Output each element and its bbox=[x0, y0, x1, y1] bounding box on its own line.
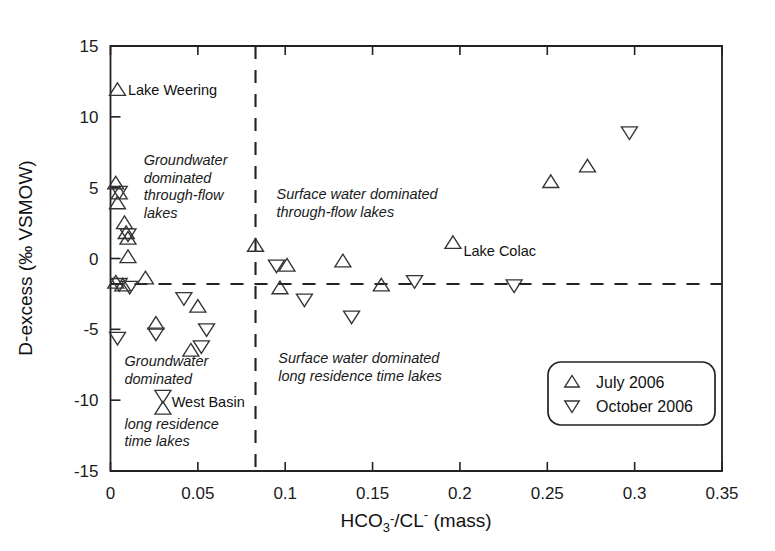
x-tick-label: 0.3 bbox=[623, 484, 647, 503]
legend-label: October 2006 bbox=[596, 398, 693, 415]
lake-colac-label: Lake Colac bbox=[463, 243, 536, 259]
annotation-line: Surface water dominated bbox=[276, 186, 438, 202]
annotation-line: lakes bbox=[144, 205, 178, 221]
x-tick-label: 0.15 bbox=[356, 484, 389, 503]
legend-box bbox=[548, 362, 715, 425]
y-tick-label: -10 bbox=[74, 391, 99, 410]
x-tick-label: 0.25 bbox=[531, 484, 564, 503]
y-axis-title: D-excess (‰ VSMOW) bbox=[15, 160, 36, 355]
annotation-line: Groundwater bbox=[144, 152, 229, 168]
y-tick-label: 5 bbox=[89, 179, 98, 198]
annotation-line: Groundwater bbox=[124, 353, 209, 369]
svg-text:HCO3-/CL- (mass): HCO3-/CL- (mass) bbox=[340, 507, 491, 535]
surface-longresidence-label: Surface water dominatedlong residence ti… bbox=[278, 350, 442, 384]
annotation-line: long residence time lakes bbox=[278, 368, 442, 384]
y-tick-label: 15 bbox=[80, 37, 99, 56]
annotation-line: dominated bbox=[144, 170, 213, 186]
y-tick-label: -5 bbox=[83, 320, 98, 339]
svg-text:D-excess (‰ VSMOW): D-excess (‰ VSMOW) bbox=[15, 160, 36, 355]
y-tick-label: 10 bbox=[80, 108, 99, 127]
annotation-line: long residence bbox=[124, 416, 218, 432]
y-tick-label: 0 bbox=[89, 250, 98, 269]
annotation-line: Surface water dominated bbox=[278, 350, 440, 366]
chart-legend[interactable]: July 2006October 2006 bbox=[548, 362, 715, 425]
x-tick-label: 0.35 bbox=[705, 484, 738, 503]
lake-weering-label: Lake Weering bbox=[128, 82, 217, 98]
annotation-line: dominated bbox=[124, 371, 193, 387]
x-axis-title: HCO3-/CL- (mass) bbox=[340, 507, 491, 535]
west-basin-label: West Basin bbox=[172, 394, 245, 410]
annotation-line: time lakes bbox=[124, 433, 189, 449]
x-tick-label: 0 bbox=[106, 484, 115, 503]
x-tick-label: 0.2 bbox=[448, 484, 472, 503]
y-tick-label: -15 bbox=[74, 462, 99, 481]
scatter-plot-figure: 00.050.10.150.20.250.30.35 -15-10-505101… bbox=[0, 0, 775, 551]
chart-canvas: 00.050.10.150.20.250.30.35 -15-10-505101… bbox=[0, 0, 775, 551]
x-tick-label: 0.05 bbox=[181, 484, 214, 503]
annotation-line: through-flow lakes bbox=[276, 204, 394, 220]
x-tick-label: 0.1 bbox=[273, 484, 297, 503]
legend-label: July 2006 bbox=[596, 374, 665, 391]
annotation-line: through-flow bbox=[144, 187, 225, 203]
